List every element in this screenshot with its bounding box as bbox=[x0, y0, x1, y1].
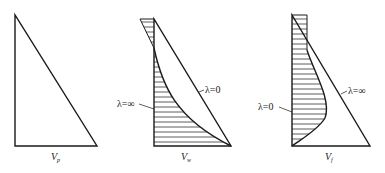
vf-label-lambda-inf: λ=∞ bbox=[348, 85, 366, 96]
vf-frame bbox=[292, 15, 370, 146]
vw-leader-zero bbox=[199, 90, 204, 92]
panel-vw: λ=∞ λ=0 Vw bbox=[117, 19, 240, 163]
vf-label: Vf bbox=[325, 151, 334, 163]
vw-leader-inf bbox=[139, 104, 154, 109]
shear-distribution-diagrams: Vp bbox=[0, 0, 385, 173]
vw-label-lambda-zero: λ=0 bbox=[205, 84, 221, 95]
vf-leader-zero bbox=[279, 107, 292, 112]
vf-label-lambda-zero: λ=0 bbox=[258, 101, 274, 112]
panel-vp: Vp bbox=[15, 15, 97, 163]
vw-top-wedge bbox=[140, 19, 154, 48]
vf-top-rect bbox=[292, 15, 307, 50]
vf-hatching bbox=[285, 19, 340, 139]
vp-label: Vp bbox=[51, 151, 60, 163]
vp-triangle bbox=[15, 15, 97, 146]
vw-hatching bbox=[130, 22, 240, 142]
vw-label-lambda-inf: λ=∞ bbox=[117, 98, 135, 109]
vf-leader-inf bbox=[341, 91, 347, 94]
panel-vf: λ=0 λ=∞ Vf bbox=[258, 15, 370, 163]
vw-label: Vw bbox=[181, 151, 191, 163]
